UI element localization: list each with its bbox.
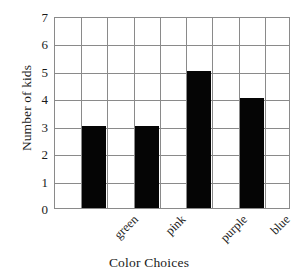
x-tick-label: purple [219,213,250,244]
x-axis-tick-labels: greenpinkpurpleblue [54,209,290,253]
x-tick-label: blue [268,213,292,237]
y-tick-label: 2 [30,148,48,161]
y-axis-tick-labels: 01234567 [30,17,48,209]
bar-chart-figure: Number of kids 01234567 greenpinkpurpleb… [0,0,298,276]
x-axis-title: Color Choices [0,255,298,271]
bar [82,126,106,208]
gridline-horizontal [55,73,289,74]
gridline-vertical [212,18,213,208]
y-tick-label: 5 [30,65,48,78]
x-tick-label: pink [163,213,188,238]
gridline-horizontal [55,45,289,46]
bar [240,98,264,208]
y-tick-label: 4 [30,93,48,106]
y-tick-label: 0 [30,203,48,216]
y-tick-label: 6 [30,38,48,51]
bar [187,71,211,208]
y-tick-label: 3 [30,120,48,133]
bar [135,126,159,208]
y-tick-label: 1 [30,175,48,188]
gridline-vertical [265,18,266,208]
gridline-vertical [107,18,108,208]
plot-area [54,17,290,209]
gridline-vertical [160,18,161,208]
y-tick-label: 7 [30,11,48,24]
x-tick-label: green [112,213,140,241]
